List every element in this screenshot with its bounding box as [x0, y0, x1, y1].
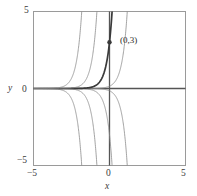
x-tick-label-min: −5: [27, 169, 37, 179]
y-tick-label-max: 5: [24, 6, 29, 16]
y-tick-label-zero: 0: [22, 85, 27, 95]
y-tick-label-min: −5: [17, 156, 27, 166]
solution-curves: [34, 0, 139, 196]
figure: 5 0 −5 −5 0 5 y x (0,3): [0, 0, 197, 196]
x-axis-label: x: [105, 182, 109, 192]
x-tick-label-max: 5: [181, 169, 186, 179]
y-axis-label: y: [8, 84, 12, 94]
point-label: (0,3): [120, 36, 137, 45]
plot-area: [0, 0, 197, 196]
x-tick-label-zero: 0: [106, 169, 111, 179]
point-marker: [107, 40, 111, 44]
